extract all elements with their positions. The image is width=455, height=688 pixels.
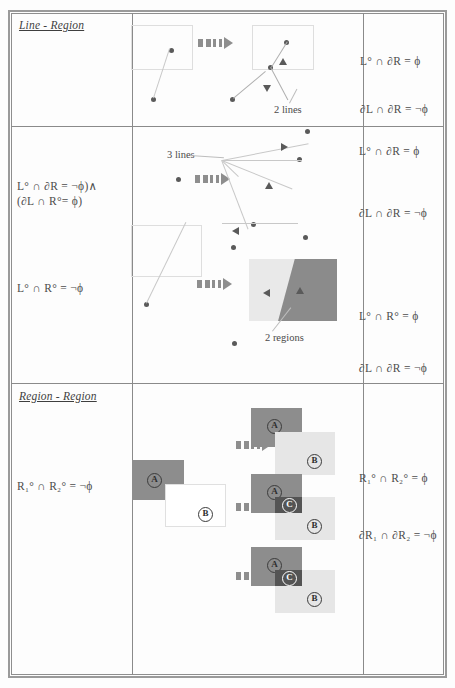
row1-diagram-cell: 2 lines bbox=[122, 13, 353, 127]
formula-r2-left-1: L° ∩ ∂R = ¬ϕ)∧ bbox=[17, 179, 97, 193]
vertex-dot bbox=[176, 177, 181, 182]
row2-right-cell: L° ∩ ∂R = ϕ ∂L ∩ ∂R = ¬ϕ L° ∩ R° = ϕ ∂L … bbox=[353, 127, 444, 384]
direction-marker-icon bbox=[281, 143, 288, 151]
row3-diagram-cell: A B A B A C B A C B bbox=[122, 384, 353, 675]
formula-r2-right-2: ∂L ∩ ∂R = ¬ϕ bbox=[359, 207, 427, 219]
line-segment bbox=[233, 71, 266, 99]
formula-r3-right-1: R₁° ∩ R₂° = ϕ bbox=[359, 472, 428, 484]
transform-arrow-icon bbox=[197, 279, 232, 288]
line-segment bbox=[222, 160, 293, 189]
row2-left-cell: L° ∩ ∂R = ¬ϕ)∧ (∂L ∩ R°= ϕ) L° ∩ R° = ¬ϕ bbox=[11, 127, 122, 384]
formula-r2-right-3: L° ∩ R° = ϕ bbox=[359, 310, 419, 322]
source-region-rect-r2 bbox=[131, 225, 202, 277]
line-segment bbox=[222, 160, 302, 161]
transform-arrow-icon bbox=[198, 38, 233, 47]
section-title-region-region: Region - Region bbox=[19, 390, 97, 402]
region-label-b: B bbox=[307, 454, 322, 469]
formula-r3-left-1: R₁° ∩ R₂° = ¬ϕ bbox=[17, 480, 93, 492]
section-title-line-region: Line - Region bbox=[19, 19, 84, 31]
vertex-dot bbox=[305, 129, 310, 134]
direction-marker-icon bbox=[232, 227, 239, 235]
formula-r2-left-2: (∂L ∩ R°= ϕ) bbox=[17, 195, 82, 207]
row1-left-cell: Line - Region bbox=[11, 13, 122, 127]
annotation-2-lines: 2 lines bbox=[274, 104, 302, 115]
annotation-2-regions: 2 regions bbox=[265, 332, 304, 343]
direction-marker-icon bbox=[296, 287, 304, 294]
direction-marker-icon bbox=[279, 58, 287, 65]
transform-arrow-icon bbox=[195, 174, 230, 183]
formula-r3-right-2: ∂R₁ ∩ ∂R₂ = ¬ϕ bbox=[359, 529, 437, 541]
region-label-a: A bbox=[147, 473, 162, 488]
row3-right-cell: R₁° ∩ R₂° = ϕ ∂R₁ ∩ ∂R₂ = ¬ϕ bbox=[353, 384, 444, 675]
source-region-b bbox=[165, 484, 226, 527]
row3-left-cell: Region - Region R₁° ∩ R₂° = ¬ϕ bbox=[11, 384, 122, 675]
region-label-c: C bbox=[282, 498, 297, 513]
row2-diagram-cell: 3 lines 2 regions bbox=[122, 127, 353, 384]
result1-region-b bbox=[275, 432, 335, 475]
leader-line bbox=[190, 155, 224, 158]
row1-right-cell: L° ∩ ∂R = ϕ ∂L ∩ ∂R = ¬ϕ bbox=[353, 13, 444, 127]
region-label-b: B bbox=[307, 519, 322, 534]
formula-r1-2: ∂L ∩ ∂R = ¬ϕ bbox=[360, 103, 428, 115]
line-segment bbox=[222, 223, 298, 224]
vertex-dot bbox=[231, 245, 236, 250]
region-label-b: B bbox=[307, 592, 322, 607]
formula-r2-right-1: L° ∩ ∂R = ϕ bbox=[359, 145, 420, 157]
formula-r1-1: L° ∩ ∂R = ϕ bbox=[360, 55, 421, 67]
document-page: Line - Region 2 lines L° ∩ ∂R = ϕ ∂L ∩ ∂… bbox=[0, 0, 455, 688]
vertex-dot bbox=[232, 341, 237, 346]
formula-r2-left-3: L° ∩ R° = ¬ϕ bbox=[17, 282, 83, 294]
line-segment bbox=[222, 143, 309, 161]
leader-line bbox=[289, 89, 297, 104]
vertex-dot bbox=[303, 235, 308, 240]
direction-marker-icon bbox=[263, 289, 270, 297]
source-region-rect-r1 bbox=[131, 25, 193, 70]
direction-marker-icon bbox=[263, 85, 271, 92]
direction-marker-icon bbox=[265, 182, 273, 189]
region-label-b: B bbox=[198, 507, 213, 522]
region-label-c: C bbox=[282, 571, 297, 586]
line-segment bbox=[270, 67, 288, 100]
formula-r2-right-4: ∂L ∩ ∂R = ¬ϕ bbox=[359, 362, 427, 374]
